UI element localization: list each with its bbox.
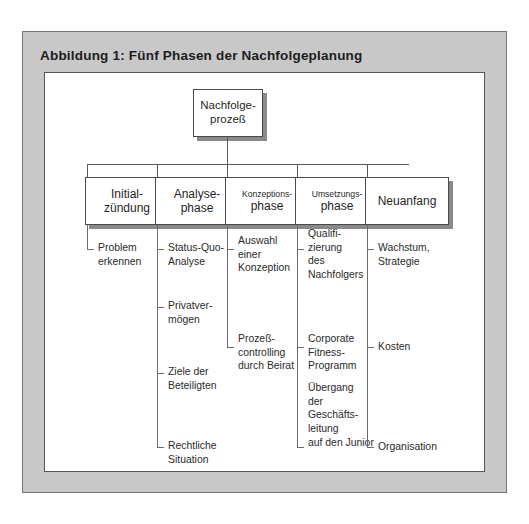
connector-bus [87, 164, 409, 165]
diagram-canvas: Nachfolge- prozeß Initial- zündung Analy… [44, 72, 485, 472]
phase-box-5-label-line1: Neuanfang [378, 194, 437, 208]
phase-box-3-label-line1: Konzeptions- [242, 189, 292, 199]
column-3-leaf-2: Prozeß- controlling durch Beirat [238, 332, 312, 373]
figure-title: Abbildung 1: Fünf Phasen der Nachfolgepl… [40, 48, 363, 63]
column-3-tick-2 [227, 347, 234, 348]
root-node-label-line2: prozeß [210, 113, 246, 127]
column-1-spine [87, 225, 88, 249]
column-5-tick-1 [367, 249, 374, 250]
column-2-leaf-4: Rechtliche Situation [168, 439, 242, 466]
column-2-leaf-1: Status-Quo- Analyse [168, 241, 242, 268]
column-3-spine [227, 225, 228, 347]
column-5-spine [367, 225, 368, 447]
phase-box-2-label-line1: Analyse- [174, 187, 221, 201]
column-5-tick-3 [367, 447, 374, 448]
column-3-tick-1 [227, 249, 234, 250]
column-5-leaf-3: Organisation [378, 440, 464, 454]
column-2-leaf-3: Ziele der Beteiligten [168, 365, 242, 392]
column-4-tick-2 [297, 347, 304, 348]
root-node: Nachfolge- prozeß [193, 89, 263, 137]
phase-box-2-label-line2: phase [181, 201, 214, 215]
column-2-tick-4 [157, 447, 164, 448]
root-node-label-line1: Nachfolge- [200, 99, 256, 113]
column-5-leaf-1: Wachstum, Strategie [378, 241, 458, 268]
root-stem [227, 137, 228, 164]
bus-leg-4 [297, 164, 298, 177]
phase-box-1-label-line1: Initial- [111, 187, 143, 201]
column-3-leaf-1: Auswahl einer Konzeption [238, 234, 312, 275]
column-4-tick-1 [297, 249, 304, 250]
column-5-tick-2 [367, 347, 374, 348]
bus-leg-3 [227, 164, 228, 177]
column-4-leaf-3: Übergang der Geschäfts- leitung auf den … [308, 381, 388, 450]
column-4-leaf-1: Qualifi- zierung des Nachfolgers [308, 227, 384, 282]
column-5-leaf-2: Kosten [378, 340, 458, 354]
phase-box-5: Neuanfang [365, 177, 449, 225]
column-1-tick-1 [87, 249, 94, 250]
column-2-tick-3 [157, 373, 164, 374]
column-4-leaf-2: Corporate Fitness- Programm [308, 332, 384, 373]
phase-box-1-label-line2: zündung [104, 201, 150, 215]
column-2-tick-2 [157, 307, 164, 308]
column-4-spine [297, 225, 298, 447]
column-2-leaf-2: Privatver- mögen [168, 299, 242, 326]
bus-leg-1 [87, 164, 88, 177]
column-2-tick-1 [157, 249, 164, 250]
bus-leg-2 [157, 164, 158, 177]
column-4-tick-3 [297, 447, 304, 448]
column-2-spine [157, 225, 158, 447]
phase-box-3-label-line2: phase [251, 199, 284, 213]
bus-leg-5 [367, 164, 368, 177]
phase-box-4-label-line2: phase [321, 199, 354, 213]
phase-box-4-label-line1: Umsetzungs- [312, 189, 363, 199]
